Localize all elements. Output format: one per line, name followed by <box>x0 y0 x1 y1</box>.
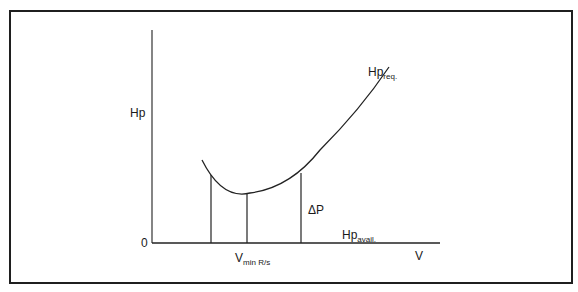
delta-p-label: ΔP <box>308 204 324 216</box>
hp-required-curve <box>202 67 389 194</box>
vmin-label: Vmin R/s <box>235 252 270 264</box>
hp-required-label-sub: req. <box>383 72 397 81</box>
diagram-canvas <box>0 0 578 292</box>
hp-available-label-main: Hp <box>342 228 357 242</box>
diagram-figure: Hp 0 Hpreq. ΔP Hpavail. Vmin R/s V <box>0 0 578 292</box>
origin-label: 0 <box>141 237 148 249</box>
x-axis-label: V <box>415 250 423 262</box>
figure-frame <box>10 11 572 283</box>
hp-required-label: Hpreq. <box>368 66 397 78</box>
hp-available-label: Hpavail. <box>342 229 376 241</box>
hp-available-label-sub: avail. <box>357 235 376 244</box>
y-axis-label: Hp <box>130 107 145 119</box>
vmin-label-sub: min R/s <box>243 258 270 267</box>
hp-required-label-main: Hp <box>368 65 383 79</box>
vmin-label-main: V <box>235 251 243 265</box>
